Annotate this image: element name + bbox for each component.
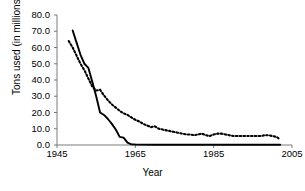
chart-container: Tons used (in millions) Year 0.010.020.0… [0, 0, 305, 191]
plot-area [0, 0, 305, 191]
series-line-dotted [69, 41, 281, 139]
series-line-solid [73, 30, 281, 144]
